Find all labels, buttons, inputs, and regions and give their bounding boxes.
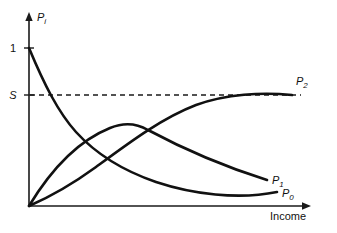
y-axis-label-sub: i [44,17,46,26]
probability-vs-income-chart: Pi 1 S P2 P1 P0 Income [0,0,337,233]
curve-label-p0-sub: 0 [289,193,294,202]
x-axis-label: Income [270,210,306,222]
tick-label-one: 1 [10,42,16,54]
curve-label-p2-sub: 2 [302,81,308,90]
tick-label-s: S [9,89,17,101]
